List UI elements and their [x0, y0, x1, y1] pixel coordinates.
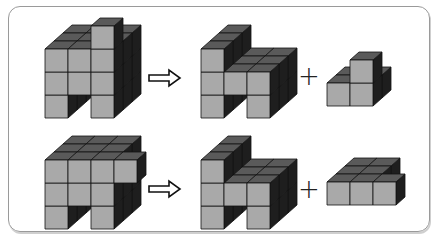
cube-front-face	[224, 183, 247, 206]
cube-front-face	[201, 95, 224, 118]
part-b-1	[327, 52, 391, 106]
cube-front-face	[247, 206, 270, 229]
whole-structure-1	[45, 18, 141, 118]
arrow-right-icon	[149, 181, 180, 197]
cube-front-face	[350, 182, 373, 205]
cube	[201, 152, 233, 183]
part-b-2	[327, 158, 405, 205]
cube	[247, 175, 279, 206]
cube-front-face	[45, 72, 68, 95]
cube-front-face	[91, 206, 114, 229]
cube	[114, 152, 146, 183]
cube	[247, 64, 279, 95]
cube	[201, 183, 224, 206]
cube-front-face	[45, 206, 68, 229]
cube	[201, 72, 224, 95]
diagram-canvas	[0, 0, 436, 238]
cube-front-face	[373, 182, 396, 205]
cube-front-face	[201, 72, 224, 95]
cube-front-face	[114, 160, 137, 183]
cube-front-face	[91, 72, 114, 95]
cube-front-face	[247, 95, 270, 118]
cube-front-face	[68, 72, 91, 95]
plus-sign: +	[298, 63, 320, 89]
cube-front-face	[201, 183, 224, 206]
cube-front-face	[45, 49, 68, 72]
cube-front-face	[247, 72, 270, 95]
cube-front-face	[327, 182, 350, 205]
cube-front-face	[91, 183, 114, 206]
cube	[68, 72, 91, 95]
cube-front-face	[91, 160, 114, 183]
plus-sign: +	[298, 176, 320, 202]
cube-front-face	[68, 183, 91, 206]
cube-front-face	[201, 160, 224, 183]
cube-front-face	[91, 95, 114, 118]
part-a-2	[201, 136, 297, 229]
arrow-row-2	[149, 181, 180, 197]
part-a-1	[201, 25, 297, 118]
whole-structure-2	[45, 136, 146, 229]
cube-front-face	[247, 183, 270, 206]
cube-front-face	[45, 160, 68, 183]
cube	[45, 72, 68, 95]
cube	[68, 183, 91, 206]
cube-front-face	[350, 83, 373, 106]
cube-front-face	[68, 160, 91, 183]
cube-front-face	[201, 49, 224, 72]
cube	[201, 41, 233, 72]
cube-front-face	[201, 206, 224, 229]
arrow-right-icon	[149, 70, 180, 86]
cube-front-face	[91, 49, 114, 72]
cube	[373, 174, 405, 205]
cube	[91, 18, 123, 49]
cube-front-face	[327, 83, 350, 106]
cube	[45, 183, 68, 206]
cube-front-face	[68, 49, 91, 72]
cube-front-face	[350, 60, 373, 83]
cube-front-face	[45, 95, 68, 118]
cube	[350, 52, 382, 83]
cube-front-face	[91, 26, 114, 49]
cube-front-face	[45, 183, 68, 206]
cube-front-face	[224, 72, 247, 95]
arrow-row-1	[149, 70, 180, 86]
